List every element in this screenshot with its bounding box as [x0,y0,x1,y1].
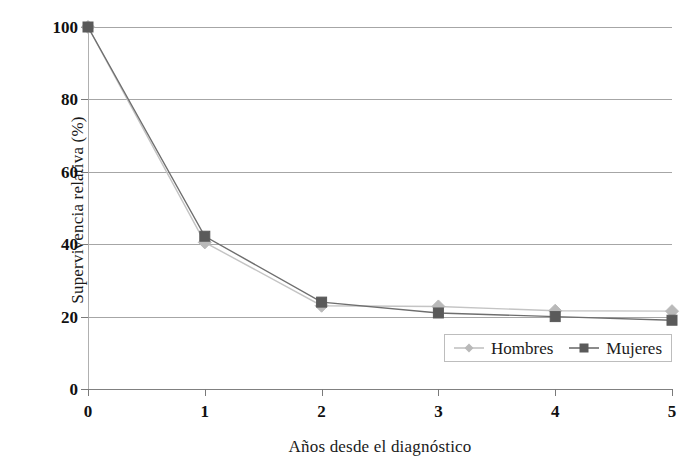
data-point-mujeres-5 [667,315,677,325]
y-tick-mark-60 [81,172,88,173]
x-tick-label-0: 0 [68,403,108,420]
y-tick-mark-80 [81,99,88,100]
y-tick-mark-20 [81,317,88,318]
data-point-mujeres-3 [433,308,443,318]
square-marker [569,341,599,355]
y-tick-label-60: 60 [24,163,78,180]
x-tick-mark-0 [88,389,89,396]
y-tick-mark-40 [81,244,88,245]
gridline-0 [88,389,672,390]
x-axis-title: Años desde el diagnóstico [88,437,672,457]
legend-box: HombresMujeres [444,334,672,362]
series-line-hombres [88,27,672,311]
legend-entry-hombres[interactable]: Hombres [454,340,553,357]
relative-survival-chart: Supervivencia relativa (%) 020406080100 … [0,0,687,476]
x-tick-mark-2 [322,389,323,396]
y-tick-label-20: 20 [24,308,78,325]
y-tick-label-100: 100 [24,19,78,36]
data-point-mujeres-4 [550,312,560,322]
series-hombres [82,21,679,318]
legend-label-mujeres: Mujeres [606,340,662,357]
legend-entry-mujeres[interactable]: Mujeres [569,340,662,357]
x-tick-mark-3 [438,389,439,396]
data-point-mujeres-0 [83,22,93,32]
x-tick-label-2: 2 [302,403,342,420]
y-tick-mark-0 [81,389,88,390]
series-line-mujeres [88,27,672,320]
y-tick-label-40: 40 [24,236,78,253]
series-mujeres [83,22,677,325]
x-tick-label-5: 5 [652,403,687,420]
x-tick-label-4: 4 [535,403,575,420]
y-tick-label-0: 0 [24,381,78,398]
x-tick-mark-5 [672,389,673,396]
data-point-mujeres-1 [200,231,210,241]
x-tick-mark-1 [205,389,206,396]
x-tick-label-1: 1 [185,403,225,420]
y-tick-label-80: 80 [24,91,78,108]
diamond-marker [454,341,484,355]
legend-label-hombres: Hombres [491,340,553,357]
x-tick-label-3: 3 [418,403,458,420]
data-point-mujeres-2 [317,297,327,307]
x-tick-mark-4 [555,389,556,396]
